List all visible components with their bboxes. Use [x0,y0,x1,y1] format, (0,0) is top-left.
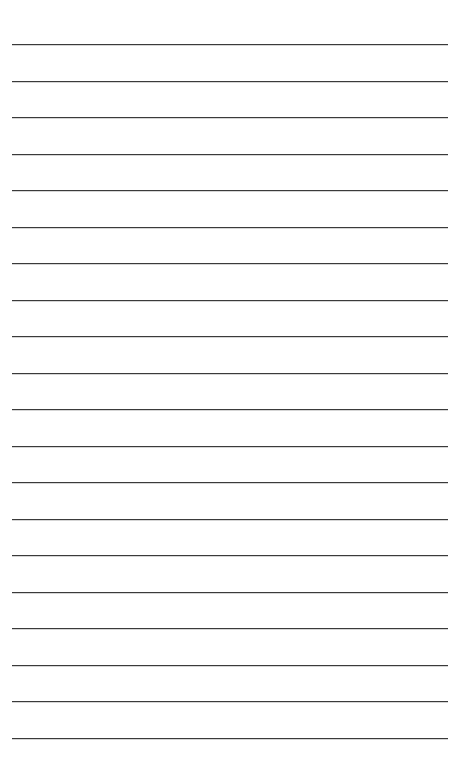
ruled-line [12,300,448,301]
ruled-line [12,482,448,483]
lined-paper-page [0,0,466,775]
ruled-line [12,336,448,337]
ruled-line [12,592,448,593]
ruled-line [12,263,448,264]
ruled-line [12,81,448,82]
ruled-line [12,701,448,702]
ruled-line [12,117,448,118]
ruled-line [12,738,448,739]
ruled-line [12,555,448,556]
ruled-line [12,154,448,155]
ruled-line [12,665,448,666]
ruled-line [12,44,448,45]
ruled-line [12,190,448,191]
ruled-line [12,227,448,228]
ruled-line [12,446,448,447]
ruled-line [12,409,448,410]
ruled-line [12,519,448,520]
ruled-line [12,628,448,629]
ruled-line [12,373,448,374]
